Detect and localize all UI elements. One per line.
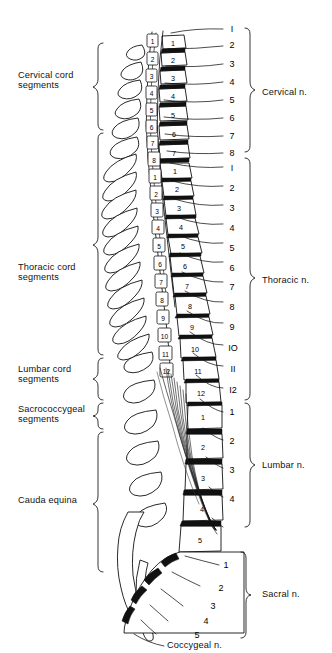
- svg-text:1: 1: [151, 38, 155, 45]
- nerve-label-s3: 3: [210, 601, 215, 611]
- svg-text:2: 2: [151, 56, 155, 63]
- svg-text:3: 3: [177, 204, 181, 213]
- nerve-label-t7: 7: [229, 282, 234, 292]
- nerve-label-c7: 7: [229, 131, 234, 141]
- svg-text:12: 12: [197, 389, 205, 398]
- svg-text:3: 3: [150, 73, 154, 80]
- svg-text:6: 6: [172, 130, 176, 139]
- svg-text:5: 5: [181, 242, 185, 251]
- svg-text:2: 2: [175, 185, 179, 194]
- label-cervical-cord-line2: segments: [18, 80, 59, 90]
- svg-text:11: 11: [194, 367, 201, 376]
- svg-text:8: 8: [152, 157, 156, 164]
- label-cervical-cord-line1: Cervical cord: [18, 70, 74, 80]
- nerve-label-c1: I: [231, 24, 234, 34]
- label-cervical-n: Cervical n.: [262, 87, 307, 97]
- nerve-label-s4: 4: [203, 616, 208, 626]
- nerve-label-c5: 5: [229, 95, 234, 105]
- label-lumbar-cord-line1: Lumbar cord: [18, 364, 71, 374]
- svg-text:7: 7: [151, 140, 155, 147]
- svg-text:1: 1: [201, 413, 205, 422]
- label-thoracic-n: Thoracic n.: [262, 275, 309, 285]
- label-sacrococcygeal-line1: Sacrococcygeal: [18, 404, 85, 414]
- svg-text:8: 8: [160, 297, 164, 304]
- nerve-label-t6: 6: [229, 263, 234, 273]
- svg-text:1: 1: [173, 167, 177, 176]
- label-coccygeal-n: Coccygeal n.: [167, 640, 222, 650]
- label-sacrococcygeal-line2: segments: [18, 414, 59, 424]
- svg-text:4: 4: [200, 505, 204, 514]
- label-sacral-n: Sacral n.: [262, 589, 300, 599]
- svg-text:3: 3: [171, 74, 175, 83]
- svg-text:9: 9: [161, 315, 165, 322]
- nerve-label-t1: I: [231, 163, 234, 173]
- nerve-label-l3: 3: [229, 465, 234, 475]
- spinal-cord-diagram: 1 2 3 4 5 6 7 8 1 2 3 4 5 6: [0, 0, 332, 653]
- svg-text:2: 2: [201, 443, 205, 452]
- svg-text:7: 7: [185, 282, 189, 291]
- svg-text:5: 5: [150, 107, 154, 114]
- nerve-label-s1: 1: [223, 560, 228, 570]
- label-thoracic-cord-line2: segments: [18, 272, 59, 282]
- svg-text:2: 2: [171, 56, 175, 65]
- svg-text:4: 4: [150, 90, 154, 97]
- svg-text:3: 3: [155, 208, 159, 215]
- figure-canvas: 1 2 3 4 5 6 7 8 1 2 3 4 5 6: [0, 0, 332, 653]
- svg-text:7: 7: [172, 149, 176, 158]
- nerve-label-l2: 2: [229, 436, 234, 446]
- svg-text:6: 6: [183, 262, 187, 271]
- svg-text:4: 4: [156, 225, 160, 232]
- nerve-label-t3: 3: [229, 203, 234, 213]
- nerve-label-c6: 6: [229, 113, 234, 123]
- nerve-label-t9: 9: [229, 322, 234, 332]
- nerve-label-t11: II: [230, 364, 235, 374]
- nerve-label-s2: 2: [218, 583, 223, 593]
- nerve-label-c2: 2: [229, 40, 234, 50]
- nerve-label-c4: 4: [229, 77, 234, 87]
- svg-text:2: 2: [154, 191, 158, 198]
- svg-text:7: 7: [159, 279, 163, 286]
- svg-text:8: 8: [188, 302, 192, 311]
- nerve-label-t12: I2: [229, 385, 237, 395]
- svg-text:9: 9: [190, 323, 194, 332]
- svg-text:5: 5: [157, 243, 161, 250]
- nerve-label-l1: 1: [229, 407, 234, 417]
- nerve-label-t4: 4: [229, 223, 234, 233]
- nerve-label-c8: 8: [229, 148, 234, 158]
- label-cauda-equina: Cauda equina: [18, 495, 78, 505]
- label-lumbar-cord-line2: segments: [18, 374, 59, 384]
- svg-text:4: 4: [171, 92, 175, 101]
- svg-text:1: 1: [171, 39, 175, 48]
- nerve-label-l4: 4: [229, 494, 234, 504]
- svg-text:5: 5: [171, 111, 175, 120]
- label-thoracic-cord-line1: Thoracic cord: [18, 262, 76, 272]
- nerve-label-t5: 5: [229, 243, 234, 253]
- svg-text:11: 11: [162, 351, 169, 358]
- svg-text:4: 4: [179, 223, 183, 232]
- svg-text:5: 5: [198, 536, 202, 545]
- nerve-label-t10: IO: [228, 343, 238, 353]
- svg-text:6: 6: [158, 261, 162, 268]
- svg-text:6: 6: [150, 124, 154, 131]
- nerve-label-c3: 3: [229, 59, 234, 69]
- svg-text:1: 1: [153, 174, 157, 181]
- nerve-label-s5: 5: [194, 630, 199, 640]
- nerve-label-t8: 8: [229, 302, 234, 312]
- svg-text:3: 3: [201, 474, 205, 483]
- svg-text:10: 10: [161, 333, 169, 340]
- svg-text:10: 10: [191, 345, 199, 354]
- label-lumbar-n: Lumbar n.: [262, 460, 305, 470]
- nerve-label-t2: 2: [229, 183, 234, 193]
